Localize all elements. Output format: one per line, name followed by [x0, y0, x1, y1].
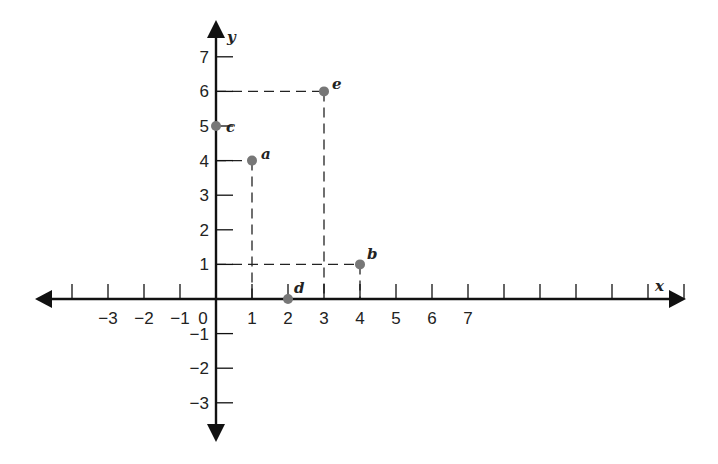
y-tick-label: 2	[200, 221, 209, 240]
data-points: abcde	[211, 75, 378, 304]
x-tick-label: 4	[355, 309, 364, 328]
axes: xy	[35, 20, 686, 442]
coordinate-plane: xy −3−2−112345670−3−2−11234567 abcde	[0, 0, 718, 464]
y-axis-label: y	[226, 28, 237, 46]
arrow-down-icon	[207, 424, 225, 442]
point-e	[319, 86, 329, 96]
y-tick-label: 6	[200, 82, 209, 101]
projection-lines	[216, 91, 360, 299]
point-label-d: d	[294, 279, 305, 297]
y-tick-label: −1	[190, 325, 209, 344]
y-tick-label: 4	[200, 152, 209, 171]
y-tick-label: 1	[200, 255, 209, 274]
point-b	[355, 259, 365, 269]
x-tick-label: 1	[247, 309, 256, 328]
point-d	[283, 294, 293, 304]
y-tick-label: 5	[200, 117, 209, 136]
x-tick-label: 6	[427, 309, 436, 328]
tick-labels: −3−2−112345670−3−2−11234567	[98, 48, 472, 413]
y-tick-label: 3	[200, 186, 209, 205]
point-c	[211, 121, 221, 131]
y-tick-label: −2	[190, 359, 209, 378]
point-a	[247, 156, 257, 166]
point-label-b: b	[367, 245, 378, 263]
y-tick-label: 7	[200, 48, 209, 67]
x-tick-label: −1	[170, 309, 189, 328]
point-label-a: a	[261, 145, 271, 163]
x-tick-label: 7	[463, 309, 472, 328]
arrow-up-icon	[207, 20, 225, 38]
point-label-c: c	[226, 118, 235, 136]
x-axis-label: x	[654, 277, 665, 295]
x-tick-label: −2	[134, 309, 153, 328]
point-label-e: e	[332, 75, 342, 93]
x-tick-label: −3	[98, 309, 117, 328]
x-tick-label: 5	[391, 309, 400, 328]
x-tick-label: 3	[319, 309, 328, 328]
x-tick-label: 2	[283, 309, 292, 328]
y-tick-label: −3	[190, 394, 209, 413]
ticks	[72, 57, 684, 403]
arrow-left-icon	[35, 290, 52, 308]
